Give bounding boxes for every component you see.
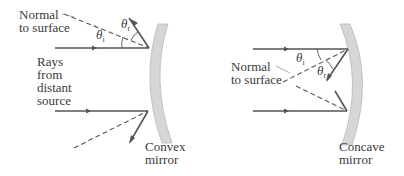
arrow-icon (86, 109, 91, 114)
angle-arc-incident (317, 49, 321, 60)
convex-mirror-panel: Normal to surface θi θr Rays from distan… (19, 7, 186, 167)
concave-label-line2: mirror (339, 152, 373, 167)
mirror-reflection-diagram: Normal to surface θi θr Rays from distan… (0, 0, 404, 176)
arrow-icon (284, 109, 289, 114)
angle-arc-reflected (326, 60, 333, 69)
normal-label-line2: to surface (19, 20, 70, 35)
theta-incident-label: θi (296, 50, 305, 67)
concave-mirror-panel: Normal to surface θi θr Concave mirror (231, 24, 385, 167)
convex-mirror (150, 24, 172, 143)
angle-arc-reflected (131, 32, 138, 40)
normal-label-leader (62, 14, 74, 17)
convex-label-line2: mirror (145, 152, 179, 167)
arrow-icon (92, 46, 97, 51)
normal-line-top (64, 14, 149, 48)
normal-label-line2: to surface (231, 72, 282, 87)
arrow-icon (284, 47, 289, 52)
normal-line-top (283, 49, 348, 82)
concave-mirror (340, 24, 363, 145)
theta-reflected-label: θr (317, 63, 326, 80)
angle-arc-incident (122, 37, 123, 48)
rays-label-line4: source (37, 93, 71, 108)
